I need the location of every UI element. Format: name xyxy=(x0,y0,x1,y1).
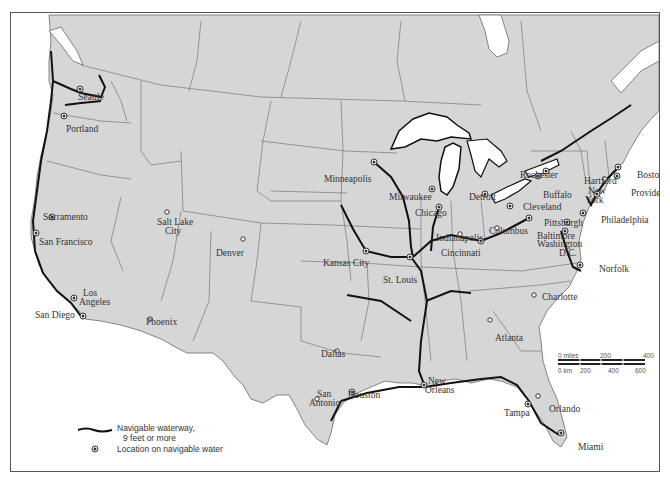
navigable-location-icon xyxy=(91,445,99,453)
label-chicago: Chicago xyxy=(415,209,447,218)
navigable-location-icon xyxy=(579,209,587,217)
navigable-location-icon xyxy=(614,163,622,171)
label-detroit: Detroit xyxy=(469,193,496,202)
label-new-orleans-2: Orleans xyxy=(425,386,455,395)
scale-km-label: 0 km xyxy=(558,367,572,374)
label-washington-2: D.C. xyxy=(559,249,577,258)
label-kansas-city: Kansas City xyxy=(323,259,369,268)
waterway-line-icon xyxy=(77,426,113,434)
scale-miles-mid: 200 xyxy=(600,352,611,359)
label-dallas: Dallas xyxy=(321,350,345,359)
city-dot-icon xyxy=(239,235,247,243)
city-dot-icon xyxy=(163,208,171,216)
label-hartford: Hartford xyxy=(584,177,617,186)
label-providence: Providence xyxy=(631,189,660,198)
label-boston: Boston xyxy=(637,171,660,180)
label-st-louis: St. Louis xyxy=(383,276,417,285)
navigable-location-icon xyxy=(525,214,533,222)
label-seattle: Seattle xyxy=(78,93,104,102)
label-columbus: Columbus xyxy=(489,227,528,236)
label-miami: Miami xyxy=(578,443,603,452)
label-indianapolis: Indianapolis xyxy=(436,234,483,243)
city-dot-icon xyxy=(530,291,538,299)
navigable-location-icon xyxy=(362,247,370,255)
city-dot-icon xyxy=(486,316,494,324)
label-milwaukee: Milwaukee xyxy=(389,193,432,202)
navigable-location-icon xyxy=(557,429,565,437)
scale-miles-max: 400 xyxy=(643,352,654,359)
navigable-location-icon xyxy=(370,158,378,166)
label-san-diego: San Diego xyxy=(35,311,75,320)
navigable-location-icon xyxy=(576,261,584,269)
label-salt-lake-2: City xyxy=(165,227,181,236)
label-norfolk: Norfolk xyxy=(599,265,629,274)
legend-location: Location on navigable water xyxy=(117,444,223,454)
scale-km-2: 400 xyxy=(608,367,619,374)
label-new-york-2: York xyxy=(585,196,604,205)
navigable-location-icon xyxy=(70,294,78,302)
map-frame: Seattle Portland Sacramento San Francisc… xyxy=(10,12,660,472)
legend-waterway-line2: 9 feet or more xyxy=(123,433,176,443)
label-pittsburgh: Pittsburgh xyxy=(544,219,583,228)
navigable-location-icon xyxy=(79,312,87,320)
label-denver: Denver xyxy=(216,249,244,258)
scale-miles-label: 0 miles xyxy=(558,352,579,359)
label-san-antonio-2: Antonio xyxy=(309,399,340,408)
label-san-francisco: San Francisco xyxy=(39,238,93,247)
navigable-location-icon xyxy=(32,229,40,237)
label-charlotte: Charlotte xyxy=(542,293,577,302)
navigable-location-icon xyxy=(506,202,514,210)
label-portland: Portland xyxy=(66,125,98,134)
label-sacramento: Sacramento xyxy=(43,213,88,222)
label-tampa: Tampa xyxy=(504,409,530,418)
navigable-location-icon xyxy=(524,400,532,408)
scale-bar-graphic xyxy=(558,359,648,367)
city-dot-icon xyxy=(534,392,542,400)
navigable-location-icon xyxy=(406,253,414,261)
scale-km-3: 600 xyxy=(635,367,646,374)
label-houston: Houston xyxy=(348,391,380,400)
label-rochester: Rochester xyxy=(520,171,558,180)
label-buffalo: Buffalo xyxy=(543,191,572,200)
label-minneapolis: Minneapolis xyxy=(324,175,372,184)
label-los-angeles-2: Angeles xyxy=(79,298,110,307)
label-cleveland: Cleveland xyxy=(523,203,562,212)
scale-km-1: 200 xyxy=(580,367,591,374)
label-orlando: Orlando xyxy=(549,405,580,414)
legend-waterway-line1: Navigable waterway, xyxy=(117,423,195,433)
navigable-location-icon xyxy=(60,112,68,120)
label-philadelphia: Philadelphia xyxy=(601,216,649,225)
label-cincinnati: Cincinnati xyxy=(441,249,481,258)
label-phoenix: Phoenix xyxy=(146,318,177,327)
label-atlanta: Atlanta xyxy=(495,334,523,343)
